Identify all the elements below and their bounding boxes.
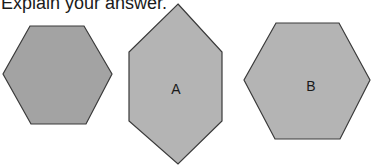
hexagon-b-label: B xyxy=(306,78,315,94)
hexagon-figures: A B xyxy=(0,0,371,166)
reference-hexagon xyxy=(3,26,112,124)
hexagon-a-label: A xyxy=(171,81,181,97)
